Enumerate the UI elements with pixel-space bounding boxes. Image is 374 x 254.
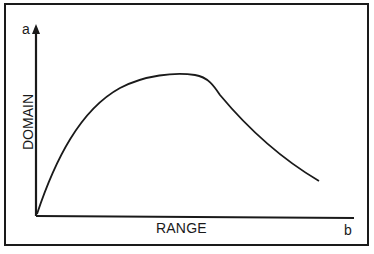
data-curve xyxy=(37,74,319,214)
y-axis-arrow-icon xyxy=(32,24,40,34)
y-axis-title: DOMAIN xyxy=(20,92,36,152)
x-axis-title: RANGE xyxy=(156,220,207,236)
y-axis-end-label: a xyxy=(22,21,30,37)
plot-area xyxy=(0,0,374,254)
x-axis xyxy=(36,216,354,218)
x-axis-end-label: b xyxy=(344,222,352,238)
